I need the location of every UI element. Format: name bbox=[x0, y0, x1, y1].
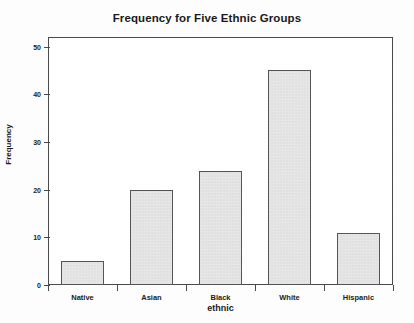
x-tick-mark bbox=[393, 285, 394, 291]
x-category-label-hispanic: Hispanic bbox=[343, 293, 374, 302]
y-tick-label: 0 bbox=[37, 282, 41, 289]
bar-black bbox=[199, 171, 242, 285]
x-category-label-native: Native bbox=[71, 293, 94, 302]
bar-hispanic bbox=[337, 233, 380, 285]
bar-native bbox=[61, 261, 104, 285]
y-axis-label: Frequency bbox=[4, 115, 13, 175]
chart-title: Frequency for Five Ethnic Groups bbox=[0, 12, 414, 24]
x-tick-mark bbox=[324, 285, 325, 291]
x-category-label-white: White bbox=[279, 293, 299, 302]
x-tick-mark bbox=[186, 285, 187, 291]
y-tick-label: 20 bbox=[33, 186, 41, 193]
x-tick-mark bbox=[255, 285, 256, 291]
y-tick-label: 40 bbox=[33, 91, 41, 98]
x-category-label-black: Black bbox=[210, 293, 230, 302]
x-tick-mark bbox=[117, 285, 118, 291]
y-tick-mark bbox=[44, 285, 50, 286]
plot-area bbox=[48, 37, 393, 285]
y-tick-label: 30 bbox=[33, 138, 41, 145]
y-tick-label: 10 bbox=[33, 234, 41, 241]
y-tick-label: 50 bbox=[33, 43, 41, 50]
bar-asian bbox=[130, 190, 173, 285]
x-tick-mark bbox=[48, 285, 49, 291]
chart-figure: Frequency for Five Ethnic Groups 0102030… bbox=[0, 0, 414, 323]
x-axis-label: ethnic bbox=[48, 303, 393, 313]
bar-white bbox=[268, 70, 311, 285]
x-category-label-asian: Asian bbox=[141, 293, 161, 302]
